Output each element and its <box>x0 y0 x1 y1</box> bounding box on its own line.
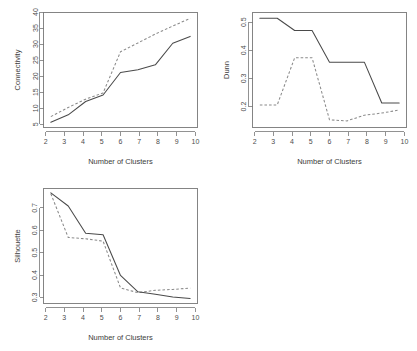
x-axis-ticks <box>46 308 196 312</box>
x-tick-label: 6 <box>328 138 332 145</box>
x-tick-label: 8 <box>156 138 160 145</box>
y-tick-label: 0.2 <box>240 102 247 112</box>
x-tick-label: 7 <box>137 314 141 321</box>
x-tick-label: 10 <box>192 138 200 145</box>
figure-canvas: 5 10 15 20 25 30 35 40 <box>0 0 417 351</box>
connectivity-plot: 5 10 15 20 25 30 35 40 <box>0 0 208 175</box>
y-tick-label: 25 <box>32 56 39 64</box>
x-axis-tick-labels: 2 3 4 5 6 7 8 9 10 <box>44 314 200 321</box>
x-tick-label: 3 <box>271 138 275 145</box>
x-tick-label: 5 <box>100 314 104 321</box>
x-tick-label: 6 <box>119 314 123 321</box>
x-tick-label: 8 <box>365 138 369 145</box>
x-axis-title: Number of Clusters <box>88 157 153 166</box>
silhouette-plot: 0.3 0.4 0.5 0.6 0.7 2 3 4 <box>0 176 208 351</box>
y-axis-title: Silhouette <box>13 229 22 262</box>
y-axis-tick-labels: 0.2 0.3 0.4 0.5 <box>240 17 247 111</box>
y-tick-label: 5 <box>32 122 39 126</box>
y-tick-label: 0.6 <box>31 225 38 235</box>
x-tick-label: 3 <box>62 314 66 321</box>
x-tick-label: 4 <box>81 314 85 321</box>
y-axis-title: Dunn <box>222 61 231 79</box>
y-tick-label: 0.5 <box>240 17 247 27</box>
series-solid <box>260 18 399 103</box>
y-tick-label: 30 <box>32 40 39 48</box>
y-tick-label: 40 <box>32 8 39 16</box>
y-tick-label: 10 <box>32 104 39 112</box>
x-tick-label: 7 <box>137 138 141 145</box>
y-axis-ticks <box>40 208 44 298</box>
y-axis-ticks <box>40 12 44 124</box>
x-tick-label: 6 <box>119 138 123 145</box>
x-axis-title: Number of Clusters <box>297 157 362 166</box>
y-tick-label: 0.5 <box>31 248 38 258</box>
y-axis-title: Connectivity <box>13 49 22 90</box>
x-axis-ticks <box>46 132 196 136</box>
x-tick-label: 5 <box>309 138 313 145</box>
x-axis-tick-labels: 2 3 4 5 6 7 8 9 10 <box>253 138 409 145</box>
panel-silhouette: 0.3 0.4 0.5 0.6 0.7 2 3 4 <box>0 176 208 351</box>
y-tick-label: 0.4 <box>240 45 247 55</box>
x-tick-label: 9 <box>175 138 179 145</box>
plot-frame <box>253 13 407 128</box>
plot-frame <box>44 13 198 128</box>
x-tick-label: 4 <box>290 138 294 145</box>
y-axis-ticks <box>249 22 253 106</box>
x-tick-label: 7 <box>346 138 350 145</box>
x-tick-label: 4 <box>81 138 85 145</box>
panel-empty <box>209 176 417 351</box>
series-dashed <box>51 194 190 293</box>
dunn-plot: 0.2 0.3 0.4 0.5 2 3 4 5 <box>209 0 417 175</box>
y-tick-label: 0.7 <box>31 203 38 213</box>
y-tick-label: 15 <box>32 88 39 96</box>
series-dashed <box>51 18 190 116</box>
y-tick-label: 35 <box>32 24 39 32</box>
x-tick-label: 3 <box>62 138 66 145</box>
y-tick-label: 0.4 <box>31 270 38 280</box>
x-tick-label: 2 <box>253 138 257 145</box>
x-tick-label: 2 <box>44 138 48 145</box>
x-tick-label: 10 <box>401 138 409 145</box>
x-tick-label: 2 <box>44 314 48 321</box>
y-tick-label: 20 <box>32 72 39 80</box>
y-axis-tick-labels: 0.3 0.4 0.5 0.6 0.7 <box>31 203 38 302</box>
series-dashed <box>260 58 399 121</box>
plot-frame <box>44 189 198 304</box>
y-tick-label: 0.3 <box>31 292 38 302</box>
x-axis-tick-labels: 2 3 4 5 6 7 8 9 10 <box>44 138 200 145</box>
panel-connectivity: 5 10 15 20 25 30 35 40 <box>0 0 208 175</box>
y-axis-tick-labels: 5 10 15 20 25 30 35 40 <box>32 8 39 126</box>
y-tick-label: 0.3 <box>240 73 247 83</box>
x-tick-label: 9 <box>384 138 388 145</box>
x-axis-ticks <box>255 132 405 136</box>
x-tick-label: 5 <box>100 138 104 145</box>
series-solid <box>51 193 190 299</box>
x-axis-title: Number of Clusters <box>88 333 153 342</box>
x-tick-label: 10 <box>192 314 200 321</box>
panel-dunn: 0.2 0.3 0.4 0.5 2 3 4 5 <box>209 0 417 175</box>
series-solid <box>51 36 190 122</box>
x-tick-label: 9 <box>175 314 179 321</box>
x-tick-label: 8 <box>156 314 160 321</box>
